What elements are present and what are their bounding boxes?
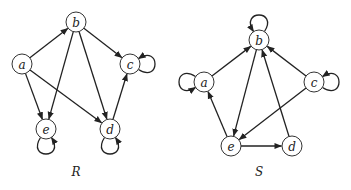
self-loop-a	[179, 73, 196, 90]
node-e: e	[221, 136, 241, 156]
self-loop-e	[37, 138, 54, 155]
node-c: c	[304, 72, 324, 92]
edge-c-to-b	[267, 46, 306, 76]
edge-e-to-a	[208, 92, 227, 137]
node-e: e	[36, 119, 56, 139]
edge-a-to-e	[25, 73, 42, 119]
node-b: b	[249, 30, 269, 50]
self-loop-c	[139, 55, 156, 72]
self-loop-d	[101, 138, 118, 155]
node-a: a	[194, 72, 214, 92]
node-label: a	[18, 58, 25, 72]
node-label: e	[227, 140, 234, 154]
edge-b-to-c	[84, 28, 122, 57]
graph-label-s: S	[255, 165, 263, 179]
self-loop-c	[323, 73, 340, 90]
edge-d-to-c	[113, 74, 127, 119]
edge-a-to-b	[30, 28, 68, 57]
node-label: c	[311, 76, 318, 90]
edge-b-to-e	[234, 50, 257, 136]
edge-c-to-e	[239, 88, 306, 139]
graph-label-r: R	[70, 165, 80, 179]
node-a: a	[12, 54, 32, 74]
node-label: d	[106, 123, 114, 137]
node-label: e	[42, 123, 49, 137]
node-label: b	[255, 34, 263, 48]
node-label: d	[288, 140, 296, 154]
node-c: c	[120, 54, 140, 74]
graph-r: abcdeR	[12, 12, 155, 179]
edge-b-to-d	[79, 32, 107, 119]
edge-b-to-e	[49, 32, 73, 119]
node-label: a	[200, 76, 207, 90]
node-d: d	[282, 136, 302, 156]
edge-d-to-b	[262, 50, 289, 136]
graph-s: abcdeS	[179, 15, 339, 179]
edge-a-to-b	[212, 46, 251, 76]
digraph-canvas: abcdeR abcdeS	[0, 0, 351, 190]
node-d: d	[100, 119, 120, 139]
node-label: b	[72, 16, 80, 30]
node-label: c	[127, 58, 134, 72]
node-b: b	[66, 12, 86, 32]
self-loop-b	[250, 15, 267, 32]
